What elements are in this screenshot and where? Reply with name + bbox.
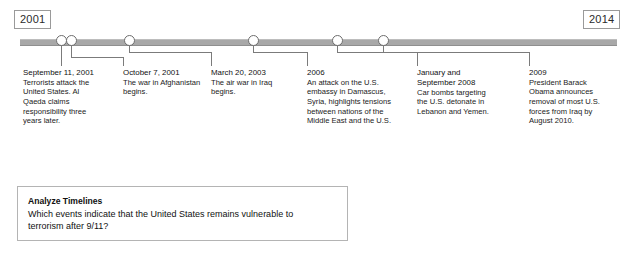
- timeline-end-year-label: 2014: [583, 10, 620, 29]
- timeline-event-year-2009: 2009 President Barack Obama announces re…: [529, 68, 613, 126]
- event-date: March 20, 2003: [211, 68, 293, 78]
- event-description: An attack on the U.S. embassy in Damascu…: [307, 78, 401, 126]
- timeline-marker-march-20-2003[interactable]: [124, 35, 135, 46]
- event-description: Car bombs targeting the U.S. detonate in…: [417, 88, 491, 117]
- event-date: 2009: [529, 68, 613, 78]
- event-description: The war in Afghanistan begins.: [123, 78, 203, 97]
- timeline-event-march-20-2003: March 20, 2003 The air war in Iraq begin…: [211, 68, 293, 97]
- timeline-marker-year-2009[interactable]: [378, 35, 389, 46]
- analyze-question-text: Which events indicate that the United St…: [28, 208, 328, 233]
- timeline-figure: 2001 2014 September 11, 2001: [0, 0, 632, 257]
- event-description: Terrorists attack the United States. Al …: [23, 78, 101, 126]
- timeline-marker-october-7-2001[interactable]: [66, 35, 77, 46]
- timeline-event-sept-11-2001: September 11, 2001 Terrorists attack the…: [23, 68, 101, 126]
- analyze-heading: Analyze Timelines: [28, 195, 337, 207]
- event-description: The air war in Iraq begins.: [211, 78, 293, 97]
- timeline-axis-bar: [20, 39, 617, 46]
- event-date: 2006: [307, 68, 401, 78]
- timeline-marker-jan-sept-2008[interactable]: [332, 35, 343, 46]
- event-description: President Barack Obama announces removal…: [529, 78, 613, 126]
- timeline-start-year-label: 2001: [14, 10, 51, 29]
- timeline-event-year-2006: 2006 An attack on the U.S. embassy in Da…: [307, 68, 401, 126]
- event-date: September 11, 2001: [23, 68, 101, 78]
- timeline-marker-year-2006[interactable]: [248, 35, 259, 46]
- event-date: October 7, 2001: [123, 68, 203, 78]
- event-date: January and September 2008: [417, 68, 491, 88]
- timeline-event-jan-sept-2008: January and September 2008 Car bombs tar…: [417, 68, 491, 116]
- analyze-timelines-box: Analyze Timelines Which events indicate …: [17, 186, 348, 241]
- timeline-event-october-7-2001: October 7, 2001 The war in Afghanistan b…: [123, 68, 203, 97]
